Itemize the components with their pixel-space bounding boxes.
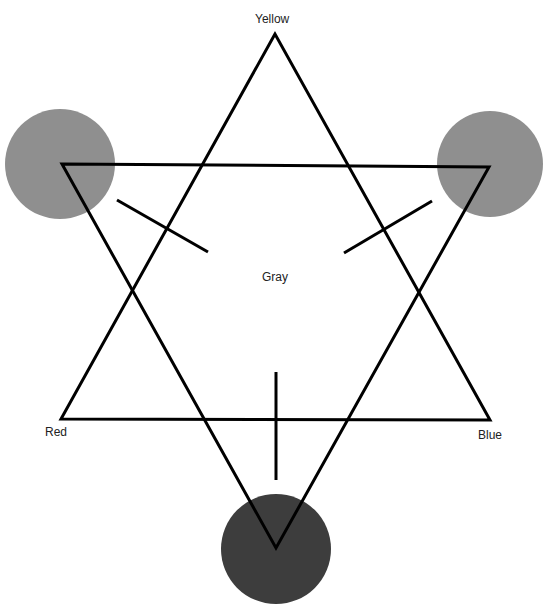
label-gray: Gray — [262, 270, 288, 284]
triangle-downward — [62, 164, 489, 548]
tick-upper-right — [344, 201, 432, 253]
tick-upper-left — [117, 200, 208, 252]
label-yellow: Yellow — [255, 12, 289, 26]
label-red: Red — [45, 425, 67, 439]
label-blue: Blue — [478, 428, 502, 442]
color-star-diagram — [0, 0, 552, 616]
circle-upper-right — [437, 111, 543, 217]
triangle-upward — [61, 34, 490, 420]
